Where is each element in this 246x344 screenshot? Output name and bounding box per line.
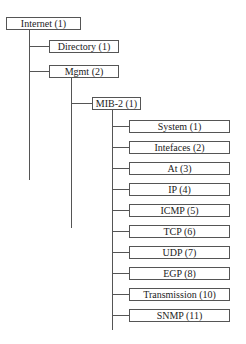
directory-connector bbox=[29, 46, 49, 47]
leaf-connector bbox=[112, 147, 129, 148]
node-system: System (1) bbox=[129, 120, 230, 133]
node-mgmt: Mgmt (2) bbox=[49, 65, 119, 78]
leaf-connector bbox=[112, 168, 129, 169]
leaf-connector bbox=[112, 315, 129, 316]
node-directory: Directory (1) bbox=[49, 40, 119, 53]
node-internet: Internet (1) bbox=[6, 17, 81, 30]
node-snmp: SNMP (11) bbox=[129, 309, 230, 322]
leaf-connector bbox=[112, 210, 129, 211]
leaf-connector bbox=[112, 273, 129, 274]
node-mib2: MIB-2 (1) bbox=[92, 97, 141, 110]
node-ip: IP (4) bbox=[129, 183, 230, 196]
mgmt-trunk-line bbox=[71, 78, 72, 228]
internet-trunk-line bbox=[29, 29, 30, 180]
leaf-connector bbox=[112, 126, 129, 127]
node-icmp: ICMP (5) bbox=[129, 204, 230, 217]
node-at: At (3) bbox=[129, 162, 230, 175]
node-transmission: Transmission (10) bbox=[129, 288, 230, 301]
leaf-connector bbox=[112, 231, 129, 232]
leaf-connector bbox=[112, 252, 129, 253]
mib2-connector bbox=[71, 103, 92, 104]
node-interfaces: Intefaces (2) bbox=[129, 141, 230, 154]
node-egp: EGP (8) bbox=[129, 267, 230, 280]
leaf-connector bbox=[112, 189, 129, 190]
node-tcp: TCP (6) bbox=[129, 225, 230, 238]
leaf-connector bbox=[112, 294, 129, 295]
mgmt-connector bbox=[29, 71, 49, 72]
mib2-trunk-line bbox=[112, 110, 113, 330]
node-udp: UDP (7) bbox=[129, 246, 230, 259]
